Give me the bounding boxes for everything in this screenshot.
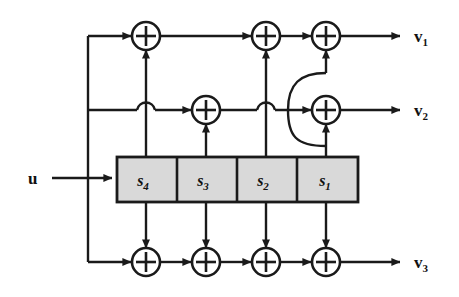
register-down-taps [146,202,326,248]
output-label-v1: v1 [414,27,428,48]
output-row-v2: v2 [137,96,429,124]
input-label-u: u [28,169,37,188]
output-label-v2: v2 [414,101,429,122]
adder-v1-1 [132,22,160,50]
adder-v2-2 [312,96,340,124]
encoder-diagram: s4 s3 s2 s1 [0,0,459,297]
output-row-v3: v3 [132,248,429,276]
output-row-v1: v1 [132,22,428,50]
adder-v3-3 [252,248,280,276]
input-branch [52,36,137,262]
shift-register-box: s4 s3 s2 s1 [117,157,358,202]
adder-v1-2 [252,22,280,50]
encoder-schematic: s4 s3 s2 s1 [0,0,459,297]
output-label-v3: v3 [414,253,429,274]
adder-v1-3 [312,22,340,50]
adder-v3-1 [132,248,160,276]
adder-v3-4 [312,248,340,276]
adder-v2-1 [192,96,220,124]
register-up-taps [146,50,326,157]
adder-v3-2 [192,248,220,276]
